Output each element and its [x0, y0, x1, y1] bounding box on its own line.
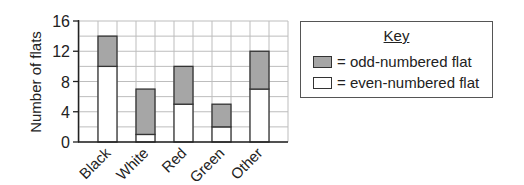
x-tick-label: Red — [158, 144, 189, 175]
legend: Key = odd-numbered flat = even-numbered … — [300, 21, 493, 98]
legend-title: Key — [301, 27, 492, 44]
even-swatch-icon — [313, 77, 332, 89]
x-tick-label: Other — [227, 144, 266, 183]
x-tick-labels: BlackWhiteRedGreenOther — [76, 144, 266, 185]
y-tick-labels: 0481216 — [52, 13, 70, 151]
bars — [98, 36, 269, 142]
x-tick-label: White — [112, 144, 151, 183]
bar-segment-red-even — [174, 104, 193, 142]
y-tick-label: 8 — [61, 74, 70, 91]
bar-segment-green-odd — [212, 104, 231, 127]
y-tick-label: 0 — [61, 134, 70, 151]
legend-item-even: = even-numbered flat — [313, 74, 479, 91]
legend-item-odd: = odd-numbered flat — [313, 53, 472, 70]
bar-segment-black-odd — [98, 36, 117, 66]
y-tick-label: 16 — [52, 13, 70, 30]
bar-segment-other-odd — [250, 51, 269, 89]
x-tick-label: Black — [76, 144, 114, 182]
stacked-bar-chart: 0481216 BlackWhiteRedGreenOther Number o… — [0, 0, 300, 185]
legend-label-even: = even-numbered flat — [337, 74, 479, 91]
x-tick-label: Green — [186, 144, 228, 185]
y-tick-label: 12 — [52, 43, 70, 60]
bar-segment-white-odd — [136, 89, 155, 134]
bar-segment-other-even — [250, 89, 269, 142]
odd-swatch-icon — [313, 56, 332, 68]
legend-label-odd: = odd-numbered flat — [337, 53, 472, 70]
y-tick-label: 4 — [61, 104, 70, 121]
y-axis-label: Number of flats — [27, 31, 44, 133]
bar-segment-green-even — [212, 127, 231, 142]
bar-segment-white-even — [136, 134, 155, 142]
bar-segment-red-odd — [174, 66, 193, 104]
bar-segment-black-even — [98, 66, 117, 142]
